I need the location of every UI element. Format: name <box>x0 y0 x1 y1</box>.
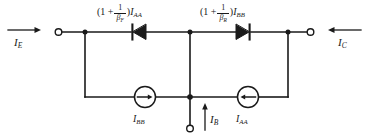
reverse-frac-denominator: βR <box>217 14 228 23</box>
label-emitter-current: IE <box>14 36 22 50</box>
reverse-frac-denominator-sub: R <box>223 16 226 22</box>
collector-current-sub: C <box>342 41 347 50</box>
source-right-sub: AA <box>239 118 247 125</box>
junction-dot-left-top <box>83 30 88 35</box>
label-reverse-branch-expression: (1 +1βR)IBB <box>200 4 245 23</box>
emitter-current-sub: E <box>18 41 23 50</box>
label-source-left: IBB <box>133 113 145 125</box>
arrow-emitter-current <box>8 27 41 33</box>
junction-dot-right-top <box>286 30 291 35</box>
label-forward-branch-expression: (1 +1βF)IAA <box>97 4 142 23</box>
reverse-expr-current-sub: BB <box>236 11 244 18</box>
source-left-sub: BB <box>136 118 144 125</box>
circuit-schematic-canvas <box>0 0 369 140</box>
label-source-right: IAA <box>236 113 248 125</box>
current-source-iaa[interactable] <box>238 87 259 108</box>
terminal-emitter[interactable] <box>55 29 62 36</box>
base-current-sub: B <box>214 118 219 127</box>
diode-forward-icon[interactable] <box>132 25 146 40</box>
arrow-base-current <box>202 103 208 130</box>
reverse-frac-numerator: 1 <box>217 4 228 12</box>
reverse-expr-fraction: 1βR <box>217 4 228 23</box>
forward-expr-current-sub: AA <box>133 11 141 18</box>
terminal-collector[interactable] <box>307 29 314 36</box>
terminal-base[interactable] <box>187 125 194 132</box>
circuit-diagram-root: (1 +1βF)IAA (1 +1βR)IBB IE IC IB IBB IAA <box>0 0 369 140</box>
forward-frac-denominator-sub: F <box>120 16 123 22</box>
reverse-expr-prefix: (1 + <box>200 6 216 17</box>
current-source-ibb[interactable] <box>135 87 156 108</box>
forward-frac-denominator: βF <box>114 14 125 23</box>
diode-reverse-icon[interactable] <box>236 25 250 40</box>
arrow-collector-current <box>328 27 361 33</box>
label-collector-current: IC <box>338 36 347 50</box>
label-base-current: IB <box>210 113 218 127</box>
forward-expr-fraction: 1βF <box>114 4 125 23</box>
junction-dot-center-top <box>188 30 193 35</box>
junction-dot-center-bottom <box>187 94 193 100</box>
forward-expr-prefix: (1 + <box>97 6 113 17</box>
forward-frac-numerator: 1 <box>114 4 125 12</box>
